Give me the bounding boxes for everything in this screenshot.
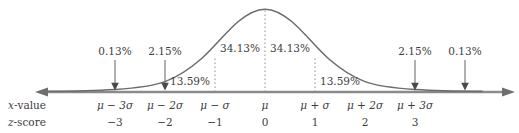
axis-arrow-right-icon xyxy=(502,88,515,97)
row-label-z-score: z-score xyxy=(8,117,46,128)
x-tick-label-plus-3-sigma: μ + 3σ xyxy=(397,100,433,111)
z-score-suffix: -score xyxy=(14,116,46,128)
arrow-to-plus-2-sigma xyxy=(411,60,419,91)
percent-label-minus-2-to-minus-1: 13.59% xyxy=(170,76,210,87)
percent-label-minus-3-to-minus-2: 2.15% xyxy=(148,46,181,57)
row-label-x-value: x-value xyxy=(8,100,46,111)
arrow-to-plus-3-sigma xyxy=(461,60,469,91)
percent-label-above-plus-3-sigma: 0.13% xyxy=(448,46,481,57)
z-tick-label-one: 1 xyxy=(312,117,319,128)
arrow-to-minus-2-sigma xyxy=(161,60,169,91)
percent-label-plus-2-to-plus-3: 2.15% xyxy=(398,46,431,57)
percent-label-minus-1-to-mean: 34.13% xyxy=(220,43,260,54)
curve-and-axis-graphic xyxy=(0,0,519,133)
z-tick-label-two: 2 xyxy=(362,117,369,128)
percent-label-below-minus-3-sigma: 0.13% xyxy=(98,46,131,57)
x-tick-label-plus-2-sigma: μ + 2σ xyxy=(347,100,383,111)
z-tick-label-three: 3 xyxy=(412,117,419,128)
axis-arrow-left-icon xyxy=(35,88,48,97)
normal-distribution-figure: 0.13% 2.15% 13.59% 34.13% 34.13% 13.59% … xyxy=(0,0,519,133)
x-tick-label-minus-1-sigma: μ − σ xyxy=(200,100,229,111)
x-tick-label-plus-1-sigma: μ + σ xyxy=(300,100,329,111)
z-tick-label-zero: 0 xyxy=(262,117,269,128)
z-tick-label-minus-2: −2 xyxy=(157,117,172,128)
x-tick-label-mean: μ xyxy=(262,100,269,111)
x-axis xyxy=(35,88,515,97)
tail-annotation-arrows xyxy=(111,60,469,91)
z-tick-label-minus-1: −1 xyxy=(207,117,222,128)
x-value-suffix: -value xyxy=(14,99,46,111)
x-tick-label-minus-3-sigma: μ − 3σ xyxy=(97,100,133,111)
percent-label-mean-to-plus-1: 34.13% xyxy=(270,43,310,54)
x-tick-label-minus-2-sigma: μ − 2σ xyxy=(147,100,183,111)
z-tick-label-minus-3: −3 xyxy=(107,117,122,128)
percent-label-plus-1-to-plus-2: 13.59% xyxy=(320,76,360,87)
arrow-to-minus-3-sigma xyxy=(111,60,119,91)
